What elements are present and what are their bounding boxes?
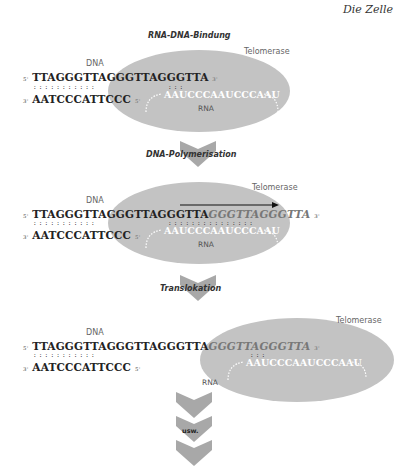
step-title-rna-dna-binding: RNA-DNA-Bindung: [148, 31, 231, 40]
dna-bottom-sequence: AATCCCATTCCC: [32, 93, 131, 105]
continuation-label: usw.: [182, 427, 199, 435]
three-prime-end: 3': [23, 366, 28, 372]
dna-bottom-strand: 3' AATCCCATTCCC 5': [23, 93, 140, 105]
chapter-header: Die Zelle: [343, 3, 393, 16]
telomerase-label: Telomerase: [252, 183, 298, 192]
three-prime-end: 3': [23, 98, 28, 104]
dna-label: DNA: [86, 328, 104, 337]
three-prime-end: 3': [23, 234, 28, 240]
five-prime-end: 5': [23, 345, 28, 351]
telomerase-label: Telomerase: [336, 316, 382, 325]
three-prime-end: 3': [314, 345, 319, 351]
process-arrow-down-icon: [176, 440, 212, 466]
telomerase-label: Telomerase: [244, 47, 290, 56]
five-prime-end: 5': [23, 76, 28, 82]
rna-template-sequence: AAUCCCAAUCCCAAU: [164, 89, 280, 100]
rna-template-sequence: AAUCCCAAUCCCAAU: [164, 225, 280, 236]
rna-label: RNA: [202, 378, 218, 387]
base-pair-dots: :::::::::::: [33, 353, 97, 356]
base-pair-dots: :::::::::::: [33, 221, 97, 224]
rna-label: RNA: [198, 104, 214, 113]
dna-top-strand: 5' TTAGGGTTAGGGTTAGGGTTA 3': [23, 71, 218, 83]
three-prime-end: 3': [212, 76, 217, 82]
step-title-translokation: Translokation: [160, 284, 221, 293]
dna-bottom-strand: 3' AATCCCATTCCC 5': [23, 361, 140, 373]
process-arrow-down-icon: [176, 392, 212, 418]
five-prime-end: 5': [135, 366, 140, 372]
dna-bottom-sequence: AATCCCATTCCC: [32, 361, 131, 373]
dna-top-sequence: TTAGGGTTAGGGTTAGGGTTA: [32, 71, 208, 83]
dna-bottom-strand: 3' AATCCCATTCCC 5': [23, 229, 140, 241]
base-pair-dots: :::::::::::: [33, 85, 97, 88]
step-title-dna-polymerisation: DNA-Polymerisation: [146, 150, 237, 159]
three-prime-end: 3': [314, 213, 319, 219]
dna-label: DNA: [86, 59, 104, 68]
five-prime-end: 5': [23, 213, 28, 219]
dna-label: DNA: [86, 196, 104, 205]
rna-label: RNA: [198, 240, 214, 249]
rna-template-sequence: AAUCCCAAUCCCAAU: [246, 357, 362, 368]
dna-bottom-sequence: AATCCCATTCCC: [32, 229, 131, 241]
